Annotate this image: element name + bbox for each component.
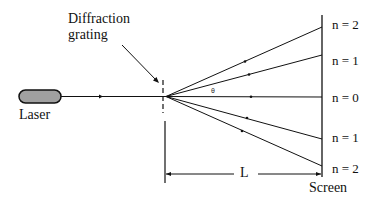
order-label-top-1: n = 1 (332, 54, 359, 67)
diffracted-rays (166, 27, 322, 166)
diagram-drawing (0, 0, 377, 204)
order-label-bottom-1: n = 1 (332, 131, 359, 144)
laser-body (19, 90, 61, 103)
order-label-top-2: n = 2 (332, 18, 359, 31)
dimension-arrow-left (166, 172, 171, 176)
grating-label-line1: Diffraction (68, 12, 130, 26)
incident-beam-arrow (99, 95, 103, 99)
screen-label: Screen (309, 181, 347, 195)
laser-label: Laser (19, 108, 50, 122)
distance-label: L (240, 166, 249, 180)
order-label-bottom-2: n = 2 (332, 162, 359, 175)
diffraction-diagram: Diffraction grating Laser θ L Screen n =… (0, 0, 377, 204)
grating-label-line2: grating (68, 28, 108, 42)
dimension-arrow-right (316, 172, 321, 176)
grating-pointer (122, 45, 157, 81)
angle-label: θ (211, 87, 215, 94)
order-label-center-0: n = 0 (332, 91, 359, 104)
